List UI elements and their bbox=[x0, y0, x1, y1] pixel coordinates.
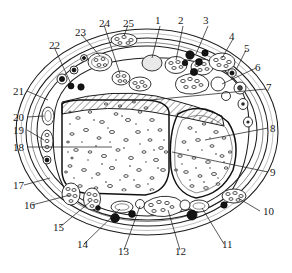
label-12: 12 bbox=[175, 246, 186, 257]
bundle-13-12 bbox=[144, 196, 183, 216]
label-1: 1 bbox=[155, 15, 161, 26]
bundle-mid-right-large bbox=[175, 73, 208, 94]
label-9: 9 bbox=[270, 167, 276, 178]
label-22: 22 bbox=[49, 40, 60, 51]
label-7: 7 bbox=[266, 82, 272, 93]
bundle-19 bbox=[41, 130, 53, 152]
figure-root: 1 2 3 4 5 6 7 8 9 10 11 12 13 14 15 16 1… bbox=[0, 0, 292, 273]
label-11: 11 bbox=[222, 239, 233, 250]
label-16: 16 bbox=[24, 200, 35, 211]
label-25: 25 bbox=[123, 18, 134, 29]
label-13: 13 bbox=[118, 246, 129, 257]
label-24: 24 bbox=[99, 18, 110, 29]
label-6: 6 bbox=[255, 62, 261, 73]
bundle-4-5 bbox=[209, 53, 235, 71]
label-5: 5 bbox=[244, 43, 250, 54]
label-19: 19 bbox=[13, 125, 24, 136]
label-8: 8 bbox=[270, 123, 276, 134]
label-4: 4 bbox=[229, 31, 235, 42]
label-23: 23 bbox=[75, 27, 86, 38]
bundle-mid-left bbox=[129, 77, 151, 91]
label-17: 17 bbox=[13, 180, 24, 191]
label-14: 14 bbox=[77, 239, 88, 250]
bundle-24 bbox=[112, 71, 130, 85]
label-18: 18 bbox=[13, 142, 24, 153]
bundle-16 bbox=[62, 183, 80, 205]
bundle-right-mid bbox=[238, 99, 248, 110]
label-15: 15 bbox=[53, 222, 64, 233]
label-21: 21 bbox=[13, 86, 24, 97]
bundle-right-low bbox=[244, 117, 253, 127]
accessory-bone bbox=[170, 109, 236, 198]
label-3: 3 bbox=[203, 15, 209, 26]
accessory-bone-marrow bbox=[174, 117, 231, 189]
interosseous-membrane-hatched bbox=[62, 93, 224, 126]
label-10: 10 bbox=[263, 206, 274, 217]
label-2: 2 bbox=[178, 15, 184, 26]
label-20: 20 bbox=[13, 112, 24, 123]
bone-cortex-and-marrow bbox=[62, 100, 169, 195]
cross-section-drawing bbox=[0, 0, 292, 273]
bone-marrow-trabeculae bbox=[65, 101, 168, 191]
